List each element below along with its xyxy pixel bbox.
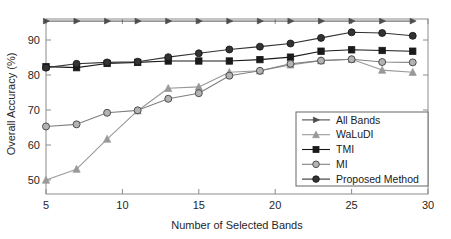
data-point-marker — [165, 95, 172, 102]
data-point-marker — [409, 59, 416, 66]
data-point-marker — [287, 40, 294, 47]
y-tick-label: 70 — [28, 104, 40, 116]
data-point-marker — [379, 30, 386, 37]
legend-label: Proposed Method — [336, 173, 419, 185]
legend-label: MI — [336, 158, 348, 170]
legend-label: All Bands — [336, 114, 380, 126]
data-point-marker — [43, 123, 50, 130]
data-point-marker — [318, 34, 325, 41]
data-point-marker — [226, 72, 233, 79]
data-point-marker — [379, 59, 386, 66]
chart-figure: 9080706050 51015202530 Overall Accuracy … — [0, 0, 451, 239]
data-point-marker — [104, 109, 111, 116]
data-point-marker — [196, 58, 202, 64]
data-point-marker — [287, 54, 293, 60]
data-point-marker — [379, 47, 385, 53]
data-point-marker — [313, 147, 319, 153]
data-point-marker — [313, 176, 320, 183]
y-axis-title: Overall Accuracy (%) — [5, 53, 17, 156]
data-point-marker — [348, 29, 355, 36]
data-point-marker — [134, 107, 141, 114]
x-tick-label: 15 — [193, 199, 205, 211]
data-point-marker — [195, 90, 202, 97]
y-tick-label: 60 — [28, 139, 40, 151]
data-point-marker — [410, 48, 416, 54]
data-point-marker — [409, 32, 416, 39]
data-point-marker — [318, 48, 324, 54]
data-point-marker — [318, 57, 325, 64]
data-point-marker — [256, 43, 263, 50]
y-tick-label: 90 — [28, 34, 40, 46]
data-point-marker — [43, 64, 50, 71]
data-point-marker — [257, 56, 263, 62]
data-point-marker — [226, 58, 232, 64]
x-tick-label: 5 — [43, 199, 49, 211]
x-tick-label: 30 — [422, 199, 434, 211]
data-point-marker — [73, 60, 80, 67]
data-point-marker — [348, 56, 355, 63]
x-tick-label: 10 — [116, 199, 128, 211]
legend-label: WaLuDI — [336, 128, 374, 140]
chart-legend: All BandsWaLuDITMIMIProposed Method — [296, 112, 428, 186]
y-tick-label: 50 — [28, 174, 40, 186]
data-point-marker — [195, 50, 202, 57]
data-point-marker — [226, 46, 233, 53]
data-point-marker — [348, 47, 354, 53]
legend-label: TMI — [336, 143, 354, 155]
x-tick-label: 25 — [345, 199, 357, 211]
accuracy-line-chart: 9080706050 51015202530 Overall Accuracy … — [0, 0, 451, 239]
data-point-marker — [165, 54, 172, 61]
data-point-marker — [287, 60, 294, 67]
data-point-marker — [104, 59, 111, 66]
x-axis-title: Number of Selected Bands — [171, 219, 303, 231]
y-tick-label: 80 — [28, 69, 40, 81]
x-tick-label: 20 — [269, 199, 281, 211]
data-point-marker — [73, 121, 80, 128]
data-point-marker — [313, 161, 320, 168]
data-point-marker — [134, 58, 141, 65]
data-point-marker — [256, 67, 263, 74]
